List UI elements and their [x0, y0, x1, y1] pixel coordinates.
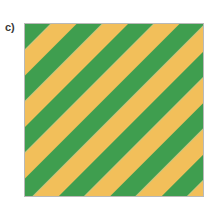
panel-label: c): [5, 21, 15, 33]
diagonal-stripe-square: [24, 23, 204, 197]
stripe-fill: [25, 24, 203, 196]
stripe-pattern-graphic: [25, 24, 203, 196]
